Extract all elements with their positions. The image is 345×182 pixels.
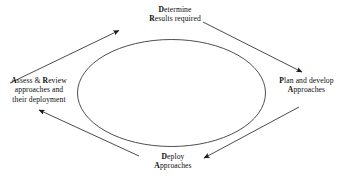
diagram-canvas: Determine Results required Assess & Revi… [0, 0, 345, 182]
determine-line-1-text: etermine [164, 5, 191, 14]
node-label-deploy: Deploy Approaches [125, 152, 221, 171]
assess-line-1-text: eview [48, 76, 67, 85]
node-label-determine: Determine Results required [120, 5, 230, 24]
deploy-line-1-text: eploy [167, 152, 184, 161]
assess-line-3: their deployment [0, 95, 78, 104]
deploy-line-2-text: pproaches [160, 161, 192, 170]
deploy-line-2: Approaches [125, 161, 221, 170]
plan-line-2: Approaches [268, 85, 345, 94]
assess-line-1-mid: ssess & [17, 76, 43, 85]
plan-line-1-text: lan and develop [284, 76, 334, 85]
deploy-line-1: Deploy [125, 152, 221, 161]
node-label-plan-develop: Plan and develop Approaches [268, 76, 345, 95]
node-label-assess-review: Assess & Review approaches and their dep… [0, 76, 78, 104]
determine-line-2: Results required [120, 14, 230, 23]
arrow-deploy-to-assess [39, 110, 139, 156]
assess-line-1: Assess & Review [0, 76, 78, 85]
plan-line-1: Plan and develop [268, 76, 345, 85]
determine-line-2-text: esults required [155, 14, 201, 23]
determine-line-1: Determine [120, 5, 230, 14]
assess-line-2: approaches and [0, 85, 78, 94]
plan-line-2-text: pproaches [293, 85, 325, 94]
center-ellipse [78, 40, 266, 147]
arrow-plan-to-deploy [204, 107, 299, 158]
arrow-determine-to-plan [203, 22, 302, 72]
